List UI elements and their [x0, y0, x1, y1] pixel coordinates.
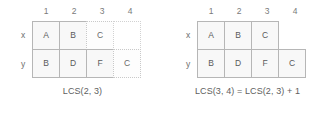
grid-cell: C: [251, 21, 279, 50]
lcs-grid-right: x A B C y B D F C: [179, 21, 306, 79]
column-header-row-right: 1 2 3 4: [197, 4, 309, 18]
grid-cell: A: [32, 21, 60, 50]
grid-cell-highlighted: C: [86, 21, 114, 50]
grid-cell: F: [86, 49, 114, 78]
column-header: 1: [197, 4, 225, 18]
row-label-x: x: [14, 21, 32, 50]
grid-row-x: x A B C: [14, 21, 141, 50]
grid-row-cells: B D F C: [32, 50, 141, 79]
lcs-panel-right: 1 2 3 4 x A B C y B D F: [165, 0, 330, 113]
grid-row-cells: A B C: [197, 21, 306, 50]
lcs-grid-left: x A B C y B D F C: [14, 21, 141, 79]
grid-cell: C: [278, 49, 306, 78]
grid-row-y: y B D F C: [14, 50, 141, 79]
grid-row-cells: B D F C: [197, 50, 306, 79]
grid-row-x: x A B C: [179, 21, 306, 50]
row-label-y: y: [179, 50, 197, 79]
column-header: 4: [281, 4, 309, 18]
grid-cell-empty: [278, 21, 306, 50]
grid-cell: B: [224, 21, 252, 50]
grid-cell-highlighted: C: [113, 49, 141, 78]
grid-cell: F: [251, 49, 279, 78]
grid-cell: A: [197, 21, 225, 50]
grid-row-y: y B D F C: [179, 50, 306, 79]
grid-cell: B: [197, 49, 225, 78]
grid-cell: D: [224, 49, 252, 78]
row-label-y: y: [14, 50, 32, 79]
column-header: 2: [225, 4, 253, 18]
column-header: 3: [253, 4, 281, 18]
grid-cell-phantom: [113, 21, 141, 50]
grid-cell: B: [59, 21, 87, 50]
grid-cell: B: [32, 49, 60, 78]
column-header: 3: [88, 4, 116, 18]
panel-caption-left: LCS(2, 3): [0, 86, 165, 96]
column-header: 1: [32, 4, 60, 18]
lcs-panel-left: 1 2 3 4 x A B C y B D F: [0, 0, 165, 113]
grid-cell: D: [59, 49, 87, 78]
panel-caption-right: LCS(3, 4) = LCS(2, 3) + 1: [165, 86, 330, 96]
lcs-figure: 1 2 3 4 x A B C y B D F: [0, 0, 330, 113]
grid-row-cells: A B C: [32, 21, 141, 50]
column-header: 4: [116, 4, 144, 18]
row-label-x: x: [179, 21, 197, 50]
column-header-row-left: 1 2 3 4: [32, 4, 144, 18]
column-header: 2: [60, 4, 88, 18]
